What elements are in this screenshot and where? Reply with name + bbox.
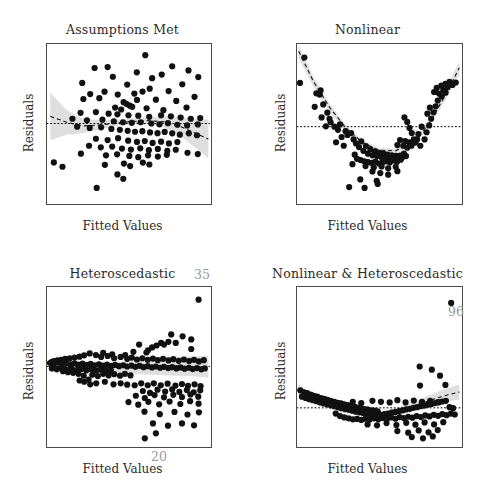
data-point <box>98 124 104 130</box>
data-point <box>394 397 400 403</box>
data-point <box>297 80 303 86</box>
data-point <box>120 119 126 125</box>
data-point <box>184 150 190 156</box>
data-point <box>115 91 121 97</box>
data-point <box>341 143 347 149</box>
data-point <box>195 151 201 157</box>
data-point <box>337 121 343 127</box>
data-point <box>387 399 393 405</box>
data-point <box>80 96 86 102</box>
data-point <box>75 371 81 377</box>
data-point <box>146 114 152 120</box>
data-point <box>339 134 345 140</box>
data-point <box>140 160 146 166</box>
data-point <box>168 331 174 337</box>
data-point <box>431 421 437 427</box>
data-point <box>191 94 197 100</box>
data-point <box>450 405 456 411</box>
data-point <box>417 363 423 369</box>
data-point <box>141 409 147 415</box>
data-point <box>137 145 143 151</box>
data-point <box>153 342 159 348</box>
data-point <box>181 356 187 362</box>
data-point <box>128 146 134 152</box>
panel-nonlinear: Nonlinear Residuals Fitted Values <box>245 0 490 246</box>
data-point <box>377 170 383 176</box>
y-axis-label-assumptions-met: Residuals <box>22 83 36 163</box>
data-point <box>364 421 370 427</box>
data-point <box>79 80 85 86</box>
data-point <box>87 350 93 356</box>
panel-nonlinear-heteroscedastic: Nonlinear & Heteroscedastic Residuals 96… <box>245 246 490 493</box>
data-point <box>150 140 156 146</box>
data-point <box>102 162 108 168</box>
y-axis-label-nonlinear: Residuals <box>274 83 288 163</box>
data-point <box>124 382 130 388</box>
data-point <box>186 130 192 136</box>
plot-area-heteroscedastic <box>46 286 212 448</box>
data-point <box>362 163 368 169</box>
data-point <box>93 380 99 386</box>
data-point <box>98 354 104 360</box>
data-point <box>197 115 203 121</box>
data-point <box>188 346 194 352</box>
x-axis-label-nonlinear-heteroscedastic: Fitted Values <box>245 462 490 476</box>
data-point <box>177 401 183 407</box>
data-point <box>419 399 425 405</box>
data-point <box>105 64 111 70</box>
data-point <box>162 129 168 135</box>
data-point <box>409 434 415 440</box>
data-point <box>142 138 148 144</box>
data-point <box>378 399 384 405</box>
data-point <box>369 168 375 174</box>
data-point <box>138 119 144 125</box>
data-point <box>162 389 168 395</box>
data-point <box>109 143 115 149</box>
data-point <box>187 398 193 404</box>
data-point <box>81 373 87 379</box>
data-point <box>98 144 104 150</box>
data-point <box>179 420 185 426</box>
data-point <box>357 176 363 182</box>
data-point <box>147 86 153 92</box>
data-point <box>127 163 133 169</box>
data-point <box>148 120 154 126</box>
data-point <box>111 355 117 361</box>
data-point <box>197 387 203 393</box>
data-point <box>168 113 174 119</box>
data-point <box>87 125 93 131</box>
data-point <box>102 379 108 385</box>
data-point <box>87 381 93 387</box>
data-point <box>155 153 161 159</box>
data-point <box>156 121 162 127</box>
data-point <box>194 132 200 138</box>
data-point <box>427 105 433 111</box>
data-point <box>105 353 111 359</box>
data-point <box>146 161 152 167</box>
data-point <box>394 428 400 434</box>
data-point <box>435 427 441 433</box>
data-point <box>453 79 459 85</box>
data-point <box>121 160 127 166</box>
data-point <box>333 139 339 145</box>
data-point <box>143 105 149 111</box>
data-point <box>429 367 435 373</box>
data-point <box>138 380 144 386</box>
data-point <box>169 63 175 69</box>
data-point <box>95 373 101 379</box>
data-point <box>427 398 433 404</box>
x-axis-label-nonlinear: Fitted Values <box>245 219 490 233</box>
data-point <box>403 153 409 159</box>
data-point <box>176 358 182 364</box>
data-point <box>145 399 151 405</box>
data-point <box>184 122 190 128</box>
data-point <box>139 88 145 94</box>
data-point <box>139 128 145 134</box>
data-point <box>358 138 364 144</box>
data-point <box>184 411 190 417</box>
data-point <box>132 129 138 135</box>
data-point <box>117 127 123 133</box>
data-point <box>191 381 197 387</box>
panel-heteroscedastic: Heteroscedastic 35 Residuals 20 Fitted V… <box>0 246 245 493</box>
data-point <box>312 104 318 110</box>
